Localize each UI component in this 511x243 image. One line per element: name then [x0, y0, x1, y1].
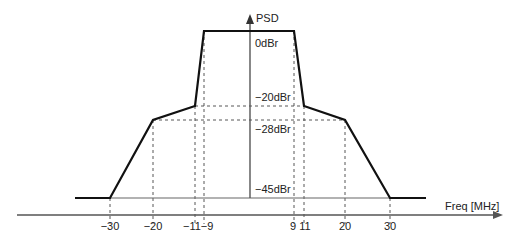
freq-axis-arrow-icon	[493, 211, 503, 219]
spectral-mask-diagram: PSD Freq [MHz] 0dBr −20dBr −28dBr −45dBr…	[0, 0, 511, 243]
tick-9: 9	[290, 220, 296, 232]
tick-minus30: −30	[101, 220, 120, 232]
tick-30: 30	[384, 220, 396, 232]
tick-minus20: −20	[144, 220, 163, 232]
level-label-minus28dbr: −28dBr	[255, 123, 291, 135]
tick-11: 11	[299, 220, 310, 232]
freq-axis-label: Freq [MHz]	[445, 200, 499, 212]
level-label-minus20dbr: −20dBr	[255, 91, 291, 103]
tick-minus9: −9	[201, 220, 214, 232]
tick-20: 20	[339, 220, 351, 232]
horizontal-guides	[153, 106, 345, 120]
psd-axis-arrow-icon	[246, 14, 254, 24]
level-label-0dbr: 0dBr	[255, 37, 279, 49]
psd-axis-label: PSD	[256, 12, 279, 24]
tick-minus11: −11	[183, 220, 201, 232]
level-label-minus45dbr: −45dBr	[255, 183, 291, 195]
